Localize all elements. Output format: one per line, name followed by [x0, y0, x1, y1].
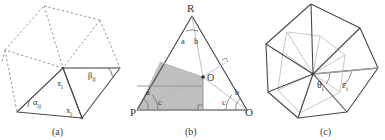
label-angle-b-top: b [194, 36, 198, 46]
panel-c-angle-arcs [326, 71, 352, 86]
caption-c: (c) [320, 126, 331, 137]
label-vertex-R: R [187, 2, 195, 14]
figure-container: αij βij xi xj [0, 0, 385, 140]
arc-O-c [226, 95, 232, 110]
label-beta-ij: βij [88, 70, 96, 82]
spoke-2 [313, 28, 360, 74]
label-angle-a-top: a [181, 36, 185, 46]
label-x-j: xj [66, 105, 72, 117]
outer-polygon [266, 4, 378, 118]
label-angle-c-left: c [158, 97, 162, 107]
center-vertex-dot [312, 73, 315, 76]
panel-a-dashed-mesh [2, 6, 120, 112]
label-vertex-O: O [245, 106, 253, 118]
panel-c-one-ring [266, 4, 378, 118]
caption-a: (a) [52, 126, 63, 137]
arc-R-split [186, 30, 198, 31]
right-angle-RO [222, 58, 228, 62]
label-circumcenter-O: O [207, 72, 214, 83]
circumcenter-dot [201, 75, 204, 78]
spoke-7 [266, 44, 313, 74]
arc-theta [326, 73, 330, 84]
spoke-1 [311, 4, 313, 74]
caption-b: (b) [185, 126, 197, 137]
panel-c: θi εi [266, 4, 378, 118]
panel-a: αij βij xi xj [2, 6, 120, 119]
spoke-5 [298, 74, 313, 118]
label-vertex-P: P [130, 106, 136, 118]
arc-beta [108, 68, 113, 77]
label-x-i: xi [57, 78, 63, 90]
edge-highlight-c [313, 68, 378, 74]
spoke-6 [268, 74, 313, 92]
panel-b: R P O O a b a c c b [130, 2, 253, 118]
label-alpha-ij: αij [33, 97, 41, 109]
label-angle-a-left: a [146, 87, 150, 97]
label-angle-b-right: b [235, 87, 239, 97]
figure-svg: αij βij xi xj [0, 0, 385, 140]
label-angle-c-right: c [222, 97, 226, 107]
